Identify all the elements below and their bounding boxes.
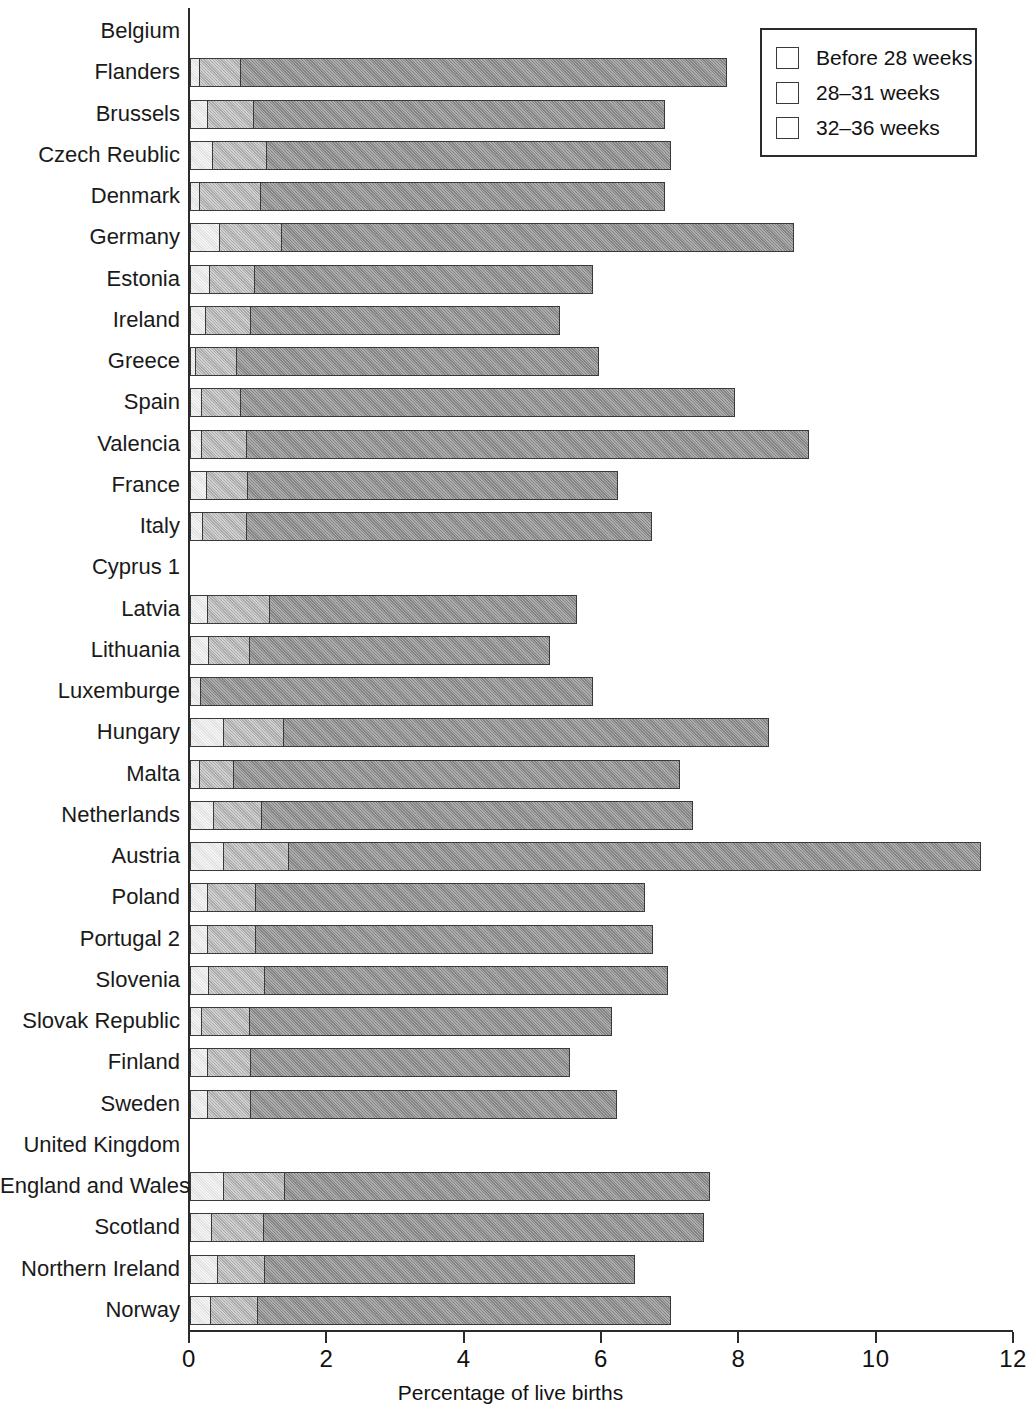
bar-segment-3[interactable] — [264, 1255, 635, 1284]
bar-segment-2[interactable] — [207, 883, 257, 912]
stacked-bar[interactable] — [190, 966, 667, 995]
bar-segment-3[interactable] — [250, 1090, 617, 1119]
bar-segment-1[interactable] — [190, 141, 214, 170]
bar-segment-3[interactable] — [266, 141, 671, 170]
stacked-bar[interactable] — [190, 182, 663, 211]
bar-segment-2[interactable] — [199, 182, 261, 211]
bar-segment-3[interactable] — [260, 182, 665, 211]
bar-segment-1[interactable] — [190, 966, 210, 995]
stacked-bar[interactable] — [190, 718, 768, 747]
bar-segment-3[interactable] — [269, 595, 577, 624]
bar-segment-3[interactable] — [200, 677, 593, 706]
stacked-bar[interactable] — [190, 265, 591, 294]
bar-segment-3[interactable] — [247, 471, 618, 500]
bar-segment-3[interactable] — [281, 223, 794, 252]
stacked-bar[interactable] — [190, 512, 650, 541]
bar-segment-3[interactable] — [254, 265, 593, 294]
stacked-bar[interactable] — [190, 388, 733, 417]
bar-segment-1[interactable] — [190, 718, 224, 747]
bar-segment-1[interactable] — [190, 223, 221, 252]
stacked-bar[interactable] — [190, 223, 792, 252]
bar-segment-2[interactable] — [202, 512, 247, 541]
bar-segment-2[interactable] — [205, 306, 252, 335]
bar-segment-2[interactable] — [201, 430, 248, 459]
bar-segment-2[interactable] — [223, 718, 285, 747]
bar-segment-2[interactable] — [201, 388, 242, 417]
bar-segment-3[interactable] — [240, 58, 727, 87]
stacked-bar[interactable] — [190, 1048, 568, 1077]
legend-item-28-31[interactable]: 28–31 weeks — [776, 75, 963, 110]
bar-segment-2[interactable] — [208, 966, 265, 995]
bar-segment-2[interactable] — [219, 223, 282, 252]
bar-segment-3[interactable] — [233, 760, 680, 789]
bar-segment-1[interactable] — [190, 595, 209, 624]
bar-segment-1[interactable] — [190, 1048, 209, 1077]
bar-segment-3[interactable] — [288, 842, 981, 871]
stacked-bar[interactable] — [190, 430, 807, 459]
bar-segment-3[interactable] — [263, 1213, 704, 1242]
bar-segment-1[interactable] — [190, 1172, 224, 1201]
stacked-bar[interactable] — [190, 471, 616, 500]
bar-segment-2[interactable] — [199, 58, 242, 87]
stacked-bar[interactable] — [190, 100, 663, 129]
bar-segment-3[interactable] — [249, 1007, 612, 1036]
bar-segment-2[interactable] — [207, 1048, 252, 1077]
legend-item-before-28[interactable]: Before 28 weeks — [776, 40, 963, 75]
bar-segment-2[interactable] — [211, 1213, 265, 1242]
bar-segment-3[interactable] — [255, 883, 645, 912]
legend-item-32-36[interactable]: 32–36 weeks — [776, 110, 963, 145]
bar-segment-3[interactable] — [249, 636, 550, 665]
bar-segment-2[interactable] — [210, 1296, 259, 1325]
bar-segment-3[interactable] — [253, 100, 665, 129]
bar-segment-2[interactable] — [206, 471, 249, 500]
bar-segment-3[interactable] — [236, 347, 599, 376]
bar-segment-3[interactable] — [283, 718, 769, 747]
stacked-bar[interactable] — [190, 1172, 708, 1201]
bar-segment-3[interactable] — [257, 1296, 671, 1325]
bar-segment-2[interactable] — [217, 1255, 265, 1284]
bar-segment-1[interactable] — [190, 925, 209, 954]
stacked-bar[interactable] — [190, 347, 597, 376]
stacked-bar[interactable] — [190, 1296, 669, 1325]
bar-segment-2[interactable] — [199, 760, 235, 789]
bar-segment-3[interactable] — [250, 1048, 570, 1077]
bar-segment-2[interactable] — [213, 801, 262, 830]
bar-segment-3[interactable] — [246, 430, 809, 459]
bar-segment-1[interactable] — [190, 265, 211, 294]
bar-segment-1[interactable] — [190, 1090, 209, 1119]
bar-segment-2[interactable] — [207, 100, 254, 129]
stacked-bar[interactable] — [190, 1255, 633, 1284]
stacked-bar[interactable] — [190, 760, 678, 789]
bar-segment-3[interactable] — [250, 306, 560, 335]
stacked-bar[interactable] — [190, 595, 575, 624]
bar-segment-1[interactable] — [190, 1255, 219, 1284]
stacked-bar[interactable] — [190, 1090, 616, 1119]
bar-segment-2[interactable] — [223, 1172, 285, 1201]
bar-segment-1[interactable] — [190, 842, 224, 871]
bar-segment-2[interactable] — [195, 347, 238, 376]
bar-segment-2[interactable] — [209, 265, 256, 294]
stacked-bar[interactable] — [190, 925, 651, 954]
bar-segment-2[interactable] — [207, 595, 270, 624]
bar-segment-3[interactable] — [261, 801, 693, 830]
bar-segment-1[interactable] — [190, 636, 210, 665]
bar-segment-3[interactable] — [264, 966, 668, 995]
bar-segment-3[interactable] — [284, 1172, 710, 1201]
bar-segment-3[interactable] — [246, 512, 652, 541]
stacked-bar[interactable] — [190, 677, 592, 706]
stacked-bar[interactable] — [190, 1213, 702, 1242]
bar-segment-3[interactable] — [255, 925, 653, 954]
stacked-bar[interactable] — [190, 883, 644, 912]
bar-segment-3[interactable] — [240, 388, 734, 417]
bar-segment-1[interactable] — [190, 801, 215, 830]
stacked-bar[interactable] — [190, 636, 548, 665]
stacked-bar[interactable] — [190, 58, 725, 87]
stacked-bar[interactable] — [190, 801, 691, 830]
bar-segment-2[interactable] — [212, 141, 267, 170]
bar-segment-1[interactable] — [190, 100, 209, 129]
bar-segment-1[interactable] — [190, 1296, 211, 1325]
stacked-bar[interactable] — [190, 141, 669, 170]
stacked-bar[interactable] — [190, 1007, 610, 1036]
bar-segment-2[interactable] — [201, 1007, 250, 1036]
bar-segment-2[interactable] — [223, 842, 290, 871]
